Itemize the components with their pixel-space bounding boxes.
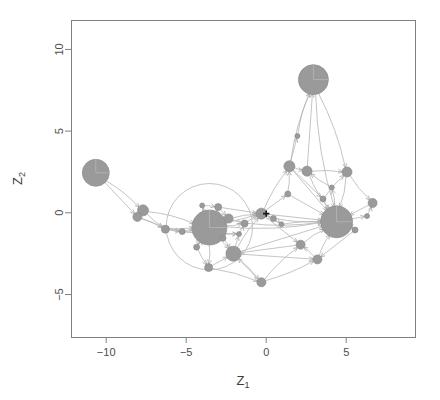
- network-node: [368, 199, 377, 208]
- network-edge: [221, 208, 256, 213]
- network-node: [200, 203, 205, 208]
- y-tick-label: 5: [53, 128, 65, 134]
- network-edge: [304, 230, 324, 243]
- scatter-network-plot: −10−505−50510Z1Z2: [0, 0, 440, 400]
- network-node: [285, 191, 291, 197]
- network-node: [365, 214, 370, 219]
- network-edge: [209, 244, 210, 264]
- network-node: [284, 161, 295, 172]
- network-edge: [350, 176, 370, 200]
- x-axis-title-base: Z: [237, 373, 245, 388]
- network-node: [220, 235, 226, 241]
- network-node: [279, 222, 284, 227]
- y-axis-title-subscript: 2: [17, 172, 27, 177]
- plot-box: [72, 21, 416, 338]
- network-node: [302, 166, 312, 176]
- network-node: [179, 229, 185, 235]
- x-tick-label: −10: [97, 346, 116, 358]
- network-node: [226, 246, 241, 261]
- network-edge: [238, 259, 258, 280]
- network-node: [329, 185, 334, 190]
- network-node: [342, 167, 352, 177]
- y-tick-label: −5: [53, 288, 65, 301]
- network-edge: [340, 176, 346, 207]
- x-axis-title: Z1: [237, 373, 250, 390]
- network-node: [295, 134, 300, 139]
- x-tick-label: 0: [263, 346, 269, 358]
- network-edge: [212, 257, 228, 266]
- network-node: [296, 240, 305, 249]
- network-edge: [307, 93, 312, 166]
- network-node: [215, 204, 222, 211]
- y-axis-title: Z2: [10, 172, 27, 185]
- network-node: [313, 255, 322, 264]
- network-node: [270, 216, 276, 222]
- x-tick-label: 5: [343, 346, 349, 358]
- network-node: [194, 244, 200, 250]
- network-edge: [106, 181, 140, 208]
- network-node: [241, 220, 248, 227]
- y-tick-label: 10: [53, 43, 65, 55]
- network-edge: [265, 217, 297, 242]
- network-edge: [240, 254, 313, 259]
- network-edge: [319, 235, 330, 256]
- network-edge: [264, 248, 297, 280]
- network-edge: [265, 261, 313, 281]
- network-node: [237, 232, 242, 237]
- network-edge: [325, 175, 344, 196]
- network-node: [161, 225, 169, 233]
- plot-figure: −10−505−50510Z1Z2: [0, 0, 440, 400]
- network-edge: [198, 250, 207, 265]
- y-axis-title-base: Z: [10, 177, 25, 185]
- x-axis-title-subscript: 1: [244, 380, 249, 390]
- node-layer: [82, 65, 377, 287]
- x-tick-label: −5: [180, 346, 193, 358]
- network-node: [205, 264, 213, 272]
- y-tick-label: 0: [53, 210, 65, 216]
- network-edge: [304, 247, 315, 256]
- network-node: [133, 212, 142, 221]
- network-edge: [212, 269, 257, 282]
- network-node: [224, 214, 233, 223]
- network-edge: [298, 93, 310, 134]
- network-edge: [312, 170, 343, 171]
- network-edge: [265, 196, 285, 211]
- network-edge: [225, 224, 241, 226]
- network-node: [257, 278, 266, 287]
- network-node: [352, 227, 358, 233]
- network-edge: [290, 195, 324, 214]
- network-node: [320, 196, 326, 202]
